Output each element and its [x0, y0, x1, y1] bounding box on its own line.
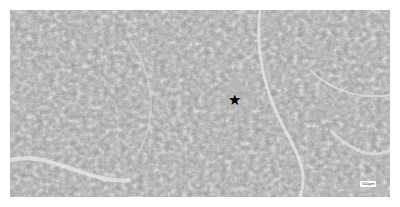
scale-bar-label: 100μm — [360, 181, 376, 187]
micrograph-image: ★ 100μm — [10, 10, 390, 197]
tissue-texture — [10, 10, 390, 197]
star-marker-icon: ★ — [228, 92, 241, 107]
